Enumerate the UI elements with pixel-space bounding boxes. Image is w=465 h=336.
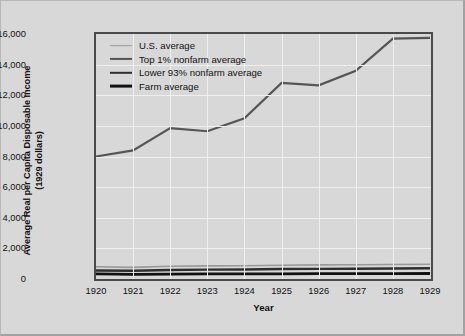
- legend-item: U.S. average: [110, 39, 262, 53]
- y-axis-tick-label: 12,000: [0, 89, 26, 100]
- gridline-horizontal: [96, 218, 431, 219]
- y-axis-tick-label: 8,000: [0, 151, 26, 162]
- series-line: [96, 268, 430, 270]
- legend-label: Lower 93% nonfarm average: [139, 67, 262, 78]
- legend-label: Top 1% nonfarm average: [139, 54, 246, 65]
- y-axis-title-line2: (1929 dollars): [33, 131, 43, 190]
- y-axis-tick-label: 6,000: [0, 181, 26, 192]
- gridline-horizontal: [96, 157, 431, 158]
- gridline-vertical: [356, 34, 357, 279]
- y-axis-tick-label: 2,000: [0, 242, 26, 253]
- legend-swatch-icon: [110, 55, 132, 64]
- gridline-horizontal: [96, 187, 431, 188]
- y-axis-tick-label: 10,000: [0, 120, 26, 131]
- y-axis-tick-label: 4,000: [0, 212, 26, 223]
- gridline-vertical: [393, 34, 394, 279]
- legend-label: U.S. average: [139, 40, 195, 51]
- gridline-vertical: [282, 34, 283, 279]
- x-axis-tick-label: 1929: [408, 285, 452, 296]
- x-axis-title: Year: [94, 302, 433, 313]
- y-axis-tick-label: 14,000: [0, 59, 26, 70]
- gridline-horizontal: [96, 126, 431, 127]
- legend-label: Farm average: [139, 81, 199, 92]
- gridline-vertical: [319, 34, 320, 279]
- legend-item: Farm average: [110, 80, 262, 94]
- series-line: [96, 264, 430, 267]
- y-axis-tick-label: 0: [0, 273, 26, 284]
- legend-swatch-icon: [110, 41, 132, 50]
- gridline-horizontal: [96, 95, 431, 96]
- y-axis-tick-label: 16,000: [0, 28, 26, 39]
- gridline-horizontal: [96, 248, 431, 249]
- legend-swatch-icon: [110, 82, 132, 91]
- legend-swatch-icon: [110, 68, 132, 77]
- legend-item: Top 1% nonfarm average: [110, 53, 262, 67]
- series-line: [96, 273, 430, 274]
- chart-legend: U.S. averageTop 1% nonfarm averageLower …: [110, 39, 262, 93]
- legend-item: Lower 93% nonfarm average: [110, 66, 262, 80]
- chart-figure: Average Real per Capita Disposable Incom…: [0, 0, 465, 336]
